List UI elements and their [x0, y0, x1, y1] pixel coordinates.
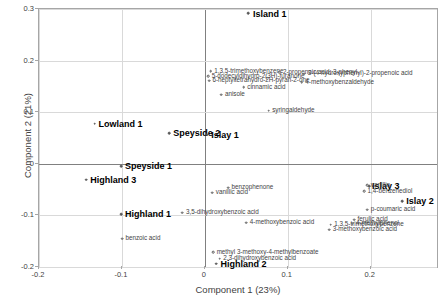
x-tickmark — [121, 266, 122, 269]
y-tick-label: 0 — [2, 158, 34, 167]
compound-data-point[interactable] — [301, 81, 304, 84]
y-tick-label: 0.2 — [2, 55, 34, 64]
region-point-label: Highland 3 — [90, 176, 136, 185]
x-tick-label: 0.1 — [282, 270, 292, 279]
y-tickmark — [35, 266, 38, 267]
compound-data-point[interactable] — [243, 86, 246, 89]
compound-point-label: 2,3-dihydroxybenzoic acid — [223, 255, 296, 261]
y-tickmark — [35, 8, 38, 9]
compound-data-point[interactable] — [220, 93, 223, 96]
compound-point-label: anisole — [225, 91, 245, 97]
compound-data-point[interactable] — [207, 75, 210, 78]
x-gridline — [122, 9, 123, 267]
compound-point-label: cinnamic acid — [247, 84, 285, 90]
region-point-label: Speyside 1 — [125, 162, 172, 171]
region-data-point[interactable] — [168, 132, 171, 135]
region-point-label: Island 1 — [253, 10, 287, 19]
compound-point-label: benzoic acid — [125, 235, 160, 241]
compound-data-point[interactable] — [218, 257, 221, 260]
compound-data-point[interactable] — [363, 190, 366, 193]
compound-data-point[interactable] — [181, 212, 184, 215]
y-tick-label: -0.2 — [2, 262, 34, 271]
region-data-point[interactable] — [85, 178, 88, 181]
compound-point-label: syringaldehyde — [272, 107, 314, 113]
compound-data-point[interactable] — [211, 191, 214, 194]
y-tickmark — [35, 163, 38, 164]
pca-scatter-chart: Island 1Lowland 1Speyside 2Islay 1Speysi… — [0, 0, 446, 302]
y-axis-zero-line — [39, 164, 437, 165]
x-tickmark — [38, 266, 39, 269]
region-data-point[interactable] — [206, 134, 209, 137]
compound-data-point[interactable] — [267, 109, 270, 112]
compound-data-point[interactable] — [366, 208, 369, 211]
compound-data-point[interactable] — [245, 221, 248, 224]
y-tickmark — [35, 111, 38, 112]
x-axis-title: Component 1 (23%) — [38, 284, 438, 295]
region-data-point[interactable] — [215, 263, 218, 266]
y-gridline — [39, 61, 437, 62]
y-gridline — [39, 112, 437, 113]
y-tickmark — [35, 214, 38, 215]
x-tick-label: 0.2 — [364, 270, 374, 279]
region-point-label: Highland 1 — [125, 210, 171, 219]
x-tickmark — [287, 266, 288, 269]
compound-data-point[interactable] — [208, 79, 211, 82]
x-tick-label: -0.1 — [114, 270, 127, 279]
y-tickmark — [35, 60, 38, 61]
region-data-point[interactable] — [120, 165, 123, 168]
compound-data-point[interactable] — [328, 229, 331, 232]
x-gridline — [288, 9, 289, 267]
compound-point-label: vanillic acid — [216, 189, 248, 195]
region-point-label: Lowland 1 — [99, 120, 143, 129]
compound-point-label: 3-(4-hydroxyphenyl)-2-propenoic acid — [308, 70, 413, 76]
y-tick-label: 0.1 — [2, 107, 34, 116]
x-tickmark — [370, 266, 371, 269]
region-data-point[interactable] — [247, 12, 250, 15]
x-tickmark — [204, 266, 205, 269]
compound-point-label: 4-methoxybenzaldehyde — [305, 79, 374, 85]
y-tick-label: 0.3 — [2, 4, 34, 13]
x-tick-label: 0 — [202, 270, 206, 279]
compound-point-label: 3-methoxybenzoic acid — [333, 226, 397, 232]
x-gridline — [39, 9, 40, 267]
region-data-point[interactable] — [93, 122, 96, 125]
y-tick-label: -0.1 — [2, 210, 34, 219]
x-tick-label: -0.2 — [32, 270, 45, 279]
compound-point-label: 1,4-benzenediol — [368, 188, 413, 194]
y-axis-title: Component 2 (21%) — [22, 56, 33, 216]
compound-point-label: p-coumaric acid — [371, 206, 415, 212]
region-data-point[interactable] — [401, 200, 404, 203]
region-point-label: Islay 1 — [211, 131, 239, 140]
plot-area: Island 1Lowland 1Speyside 2Islay 1Speysi… — [38, 8, 438, 268]
region-data-point[interactable] — [120, 213, 123, 216]
compound-data-point[interactable] — [121, 237, 124, 240]
compound-point-label: 3,5-dihydroxybenzoic acid — [186, 209, 259, 215]
compound-data-point[interactable] — [212, 251, 215, 254]
compound-point-label: 4-methoxybenzoic acid — [250, 219, 314, 225]
y-gridline — [39, 9, 437, 10]
